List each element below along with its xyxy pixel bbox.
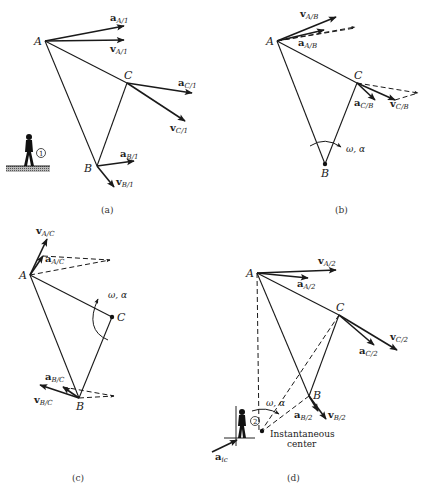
dashed-a-B [79, 396, 114, 398]
label-a-B2: aB/2 [294, 409, 313, 422]
label-a-C1: aC/1 [178, 77, 197, 90]
point-label-B: B [75, 400, 84, 413]
observer-2-icon: 2 [224, 406, 260, 446]
point-label-B: B [83, 162, 92, 175]
label-a-CB: aC/B [354, 97, 373, 110]
panel-c: A C B ω, α vA/C aA/C aB/C vB/C (c) [18, 225, 127, 483]
point-label-A: A [18, 269, 27, 282]
caption-c: (c) [72, 473, 84, 483]
relative-motion-diagram: A C B aA/1 vA/1 aC/1 vC/1 aB/1 vB/1 1 (a… [0, 0, 431, 494]
label-a-C2: aC/2 [359, 345, 378, 358]
caption-a: (a) [101, 205, 113, 215]
triangle-abc [45, 41, 127, 166]
caption-d: (d) [287, 473, 300, 483]
label-a-AB: aA/B [298, 37, 317, 50]
point-label-C: C [124, 69, 133, 82]
label-v-AC: vA/C [35, 225, 55, 238]
rotation-arrow-icon [310, 141, 341, 147]
triangle-abc [30, 275, 112, 398]
instantaneous-center-point [260, 429, 264, 433]
label-a-B1: aB/1 [120, 148, 138, 161]
dashed-line [277, 28, 355, 41]
vector-a-AC [30, 256, 43, 275]
label-a-ic: aic [215, 451, 228, 464]
point-label-C: C [117, 311, 126, 324]
label-v-BC: vB/C [33, 394, 53, 407]
point-label-A: A [33, 35, 42, 48]
label-v-CB: vC/B [389, 98, 409, 111]
label-a-BC: aB/C [45, 371, 65, 384]
panel-d: 2 A C B ω, α Instantaneous center vA/2 a… [212, 255, 409, 483]
point-label-C: C [354, 69, 363, 82]
point-label-B: B [312, 389, 321, 402]
pivot-C [110, 315, 114, 319]
label-v-C2: vC/2 [389, 331, 409, 344]
point-label-C: C [336, 301, 345, 314]
point-label-A: A [265, 35, 274, 48]
point-label-A: A [245, 267, 254, 280]
point-label-B: B [320, 167, 329, 180]
label-v-A1: vA/1 [109, 43, 128, 56]
triangle-abc [277, 41, 357, 164]
panel-a: A C B aA/1 vA/1 aC/1 vC/1 aB/1 vB/1 1 (a… [6, 12, 197, 215]
dashed-a-A [30, 260, 110, 275]
label-a-A1: aA/1 [110, 12, 128, 25]
vector-a-A1 [45, 26, 124, 41]
triangle-abc [257, 273, 339, 396]
dashed-line [395, 93, 418, 100]
pivot-B [323, 162, 327, 166]
ic-label: Instantaneous [270, 429, 335, 439]
vector-v-B1 [97, 166, 114, 187]
label-a-AC: aA/C [45, 253, 65, 266]
rotation-label: ω, α [346, 144, 365, 154]
observer-1-icon: 1 [6, 134, 50, 172]
vector-a-C2 [339, 315, 374, 345]
rotation-label: ω, α [108, 290, 127, 300]
label-v-A2: vA/2 [317, 255, 336, 268]
caption-b: (b) [335, 205, 348, 215]
vector-a-B1 [97, 161, 134, 166]
label-a-A2: aA/2 [297, 278, 316, 291]
vector-v-A2 [257, 270, 336, 273]
label-v-B1: vB/1 [115, 176, 134, 189]
rotation-label: ω, α [266, 398, 285, 408]
dashed-radius-A [257, 273, 259, 430]
ic-label: center [287, 439, 317, 449]
vector-v-C2 [339, 315, 397, 350]
vector-v-BC [40, 385, 79, 398]
label-v-AB: vA/B [299, 8, 318, 21]
vector-v-C1 [127, 83, 185, 121]
panel-b: A C B ω, α vA/B aA/B aC/B vC/B (b) [265, 8, 418, 215]
label-v-C1: vC/1 [169, 122, 188, 135]
observer-number: 1 [39, 150, 43, 158]
label-v-B2: vB/2 [327, 409, 346, 422]
vector-v-A1 [45, 40, 124, 41]
observer-number: 2 [253, 418, 257, 426]
